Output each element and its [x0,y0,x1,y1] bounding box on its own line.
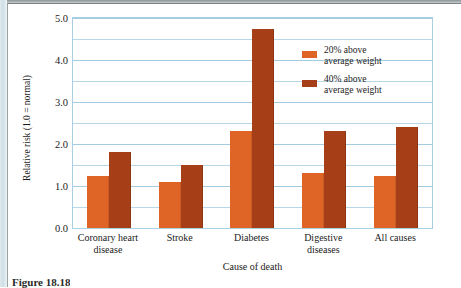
y-tick-label: 4.0 [28,55,68,66]
bar [230,131,252,228]
bar [374,176,396,229]
legend: 20% above average weight40% above averag… [302,47,428,105]
bar-group [217,18,289,228]
legend-swatch [302,80,317,87]
legend-item: 40% above average weight [302,76,428,98]
bar [87,176,109,229]
y-axis-tick-labels: 0.01.02.03.04.05.0 [22,17,68,229]
y-tick-label: 1.0 [28,181,68,192]
x-tick-label: All causes [359,232,431,244]
figure-caption: Figure 18.18 [12,276,70,288]
x-axis-tick-labels: Coronary heartdiseaseStrokeDiabetesDiges… [72,232,433,260]
legend-label: 40% above average weight [324,74,382,96]
legend-label: 20% above average weight [324,45,382,67]
bar [324,131,346,228]
bar [252,29,274,229]
legend-item: 20% above average weight [302,47,428,69]
y-tick-label: 2.0 [28,139,68,150]
y-tick-label: 0.0 [28,223,68,234]
x-tick-label: Coronary heartdisease [72,232,144,255]
y-tick-label: 5.0 [28,13,68,24]
bar [181,165,203,228]
x-tick-label: Diabetes [216,232,288,244]
y-tick-label: 3.0 [28,97,68,108]
x-axis-title: Cause of death [72,261,433,272]
bar [109,152,131,228]
bar [159,182,181,228]
bar-group [145,18,217,228]
x-tick-label: Digestivediseases [287,232,359,255]
bar [302,173,324,228]
x-tick-label: Stroke [144,232,216,244]
bar [396,127,418,228]
legend-swatch [302,51,317,58]
bar-group [73,18,145,228]
